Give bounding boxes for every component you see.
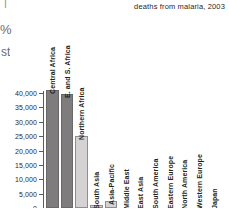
y-axis-tick — [39, 136, 43, 137]
y-axis-tick — [39, 122, 43, 123]
category-label: Central Africa — [49, 47, 56, 94]
y-axis-tick-label: 0 — [33, 205, 37, 209]
y-axis-tick — [39, 165, 43, 166]
category-label: Japan — [211, 188, 218, 208]
bar — [61, 94, 74, 208]
category-label: E. and S. Africa — [64, 46, 71, 99]
y-axis-tick-label: 25,000 — [15, 133, 37, 140]
y-axis-tick-label: 20,000 — [15, 147, 37, 154]
y-axis-tick-label: 15,000 — [15, 161, 37, 168]
category-label: Asia-Pacific — [108, 164, 115, 205]
y-axis-tick — [39, 107, 43, 108]
y-axis-tick — [39, 194, 43, 195]
y-axis-tick-label: 10,000 — [15, 176, 37, 183]
bar — [46, 90, 59, 208]
y-axis-line — [43, 91, 44, 208]
category-label: North America — [181, 160, 188, 208]
category-label: Eastern Europe — [167, 156, 174, 208]
bar — [75, 136, 88, 208]
y-axis-tick-label: 30,000 — [15, 118, 37, 125]
bar-chart: 40,00035,00030,00025,00020,00015,00010,0… — [0, 0, 229, 208]
y-axis-tick-label: 35,000 — [15, 104, 37, 111]
y-axis-tick-label: 40,000 — [15, 90, 37, 97]
y-axis-tick — [39, 93, 43, 94]
y-axis-tick — [39, 179, 43, 180]
category-label: Northern Africa — [78, 87, 85, 140]
category-label: South America — [152, 159, 159, 208]
category-label: Western Europe — [196, 154, 203, 208]
category-label: Middle East — [123, 169, 130, 208]
y-axis-tick — [39, 151, 43, 152]
category-label: East Asia — [137, 177, 144, 208]
y-axis-tick-label: 5,000 — [19, 190, 37, 197]
category-label: South Asia — [93, 172, 100, 208]
